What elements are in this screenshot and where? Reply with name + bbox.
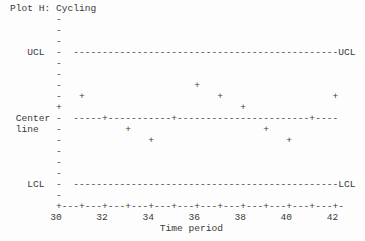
control-chart: Plot H: Cycling - - - bbox=[10, 3, 361, 234]
plot-window: Plot H: Cycling - - - bbox=[0, 0, 365, 241]
